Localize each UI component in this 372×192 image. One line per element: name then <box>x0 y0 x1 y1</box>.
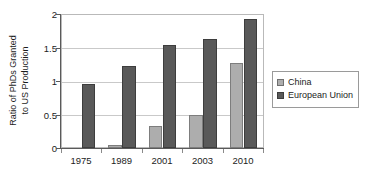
x-tick-mark <box>263 149 264 153</box>
bar-chart: Ratio of PhDs Granted to US Production 2… <box>0 0 372 192</box>
bar-european-union-1975 <box>82 84 96 148</box>
legend-swatch-icon <box>277 79 284 86</box>
x-tick-label: 1989 <box>111 155 132 166</box>
x-tick-mark <box>142 149 143 153</box>
legend-item-china: China <box>277 76 353 89</box>
x-tick-mark <box>61 149 62 153</box>
x-tick-label: 2003 <box>192 155 213 166</box>
legend-label: China <box>288 76 312 89</box>
y-axis-title: Ratio of PhDs Granted to US Production <box>2 0 36 160</box>
y-tick-label: 2 <box>36 9 57 20</box>
x-tick-label: 2001 <box>151 155 172 166</box>
bar-european-union-1989 <box>122 66 136 148</box>
x-tick-label: 1975 <box>70 155 91 166</box>
x-axis-line <box>57 148 264 149</box>
bar-china-1989 <box>108 145 122 148</box>
bar-european-union-2010 <box>244 19 258 148</box>
y-axis-title-line-1: Ratio of PhDs Granted <box>8 35 20 126</box>
legend-swatch-icon <box>277 92 284 99</box>
bar-china-2001 <box>149 126 163 148</box>
y-axis-tick-labels: 2 1.5 1 0.5 0 <box>36 0 57 192</box>
bar-china-2003 <box>189 115 203 149</box>
legend: China European Union <box>272 71 359 108</box>
bar-european-union-2001 <box>163 45 177 148</box>
bar-european-union-2003 <box>203 39 217 148</box>
x-tick-label: 2010 <box>232 155 253 166</box>
x-tick-mark <box>223 149 224 153</box>
bars-layer <box>61 14 264 148</box>
y-tick-label: 1.5 <box>36 42 57 53</box>
y-tick-label: 1 <box>36 76 57 87</box>
y-tick-label: 0.5 <box>36 109 57 120</box>
x-tick-mark <box>182 149 183 153</box>
x-tick-mark <box>101 149 102 153</box>
y-tick-label: 0 <box>36 143 57 154</box>
legend-label: European Union <box>288 89 353 102</box>
legend-item-european-union: European Union <box>277 89 353 102</box>
bar-china-2010 <box>230 63 244 148</box>
y-axis-title-line-2: to US Production <box>19 35 31 126</box>
